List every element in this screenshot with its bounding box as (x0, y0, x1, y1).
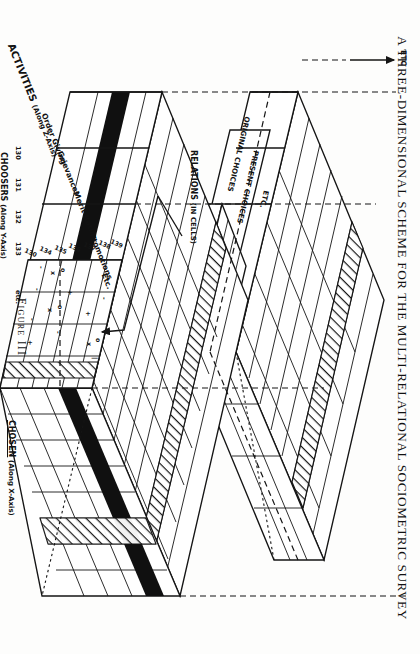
figure-caption: Figure III (16, 0, 28, 654)
isometric-diagram: ORIGINAL CHOICES PRESENT CHOICES ETC. (0, 0, 420, 654)
relations-label: RELATIONS (189, 150, 198, 200)
figure-stage: A THREE-DIMENSIONAL SCHEME FOR THE MULTI… (0, 0, 420, 654)
figure-page: A THREE-DIMENSIONAL SCHEME FOR THE MULTI… (0, 0, 420, 654)
choosers-label: CHOOSERS (0, 152, 8, 201)
svg-text:-: - (54, 331, 62, 334)
stack-etc-arrow: ETC (302, 50, 408, 66)
choosers-qualifier: (Along Y-Axis) (0, 204, 7, 259)
relations-qualifier: (IN CELLS) (189, 203, 197, 244)
stack-etc-label: ETC (399, 50, 408, 66)
x-axis-label-group: CHOSEN (Along X-Axis) (7, 420, 16, 516)
chosen-qualifier: (Along X-Axis) (7, 460, 15, 516)
svg-text:o: o (94, 338, 102, 343)
svg-text:+: + (66, 290, 74, 295)
chosen-label: CHOSEN (7, 420, 16, 457)
y-axis-label: CHOOSERS (Along Y-Axis) (0, 152, 8, 259)
svg-text:-: - (100, 297, 108, 300)
svg-text:-: - (33, 288, 41, 291)
svg-text:-: - (28, 318, 36, 321)
svg-text:|: | (91, 357, 99, 359)
svg-text:-: - (37, 266, 45, 269)
svg-text:+: + (84, 311, 92, 316)
relations-axis-label: RELATIONS (IN CELLS) (189, 150, 198, 244)
